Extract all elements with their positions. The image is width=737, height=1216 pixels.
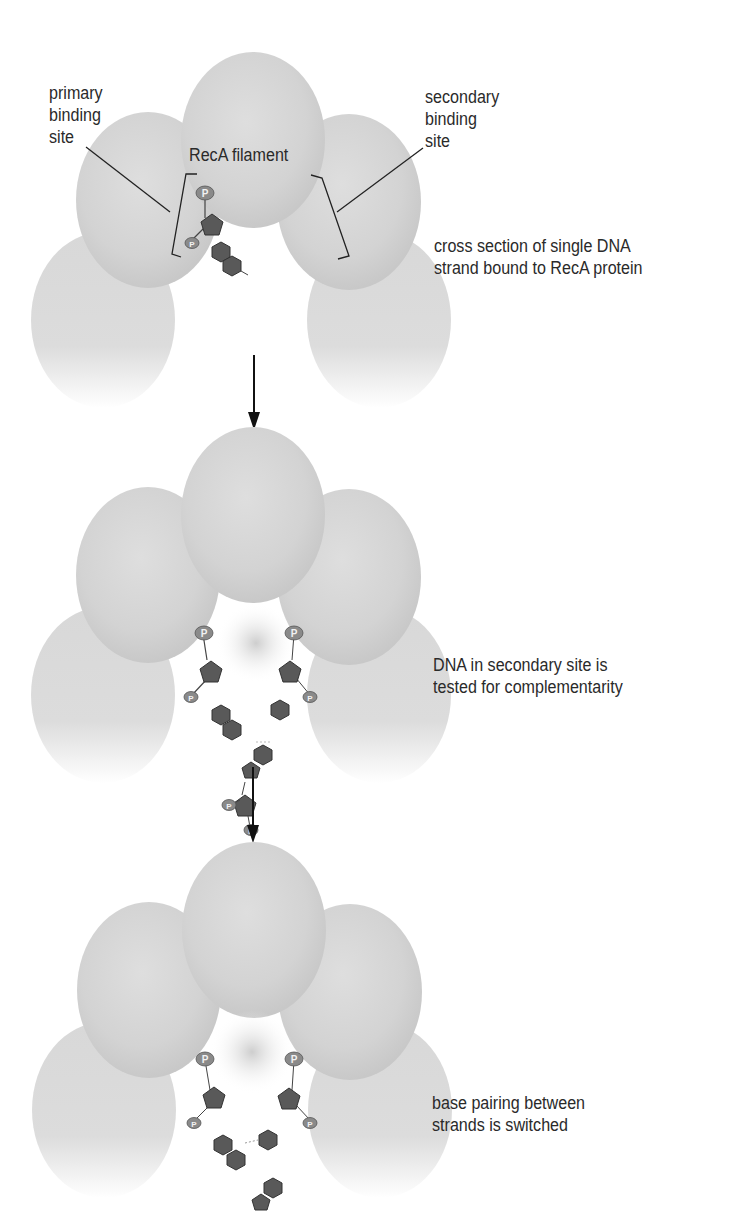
diagram-canvas: P P [0,0,737,1216]
caption-step-1: cross section of single DNA strand bound… [434,235,643,279]
caption-step-3: base pairing between strands is switched [432,1092,585,1136]
secondary-binding-site-label: secondary binding site [425,86,499,152]
primary-binding-site-label: primary binding site [49,82,103,148]
caption-step-2: DNA in secondary site is tested for comp… [433,654,623,698]
recA-filament-label: RecA filament [189,144,288,166]
